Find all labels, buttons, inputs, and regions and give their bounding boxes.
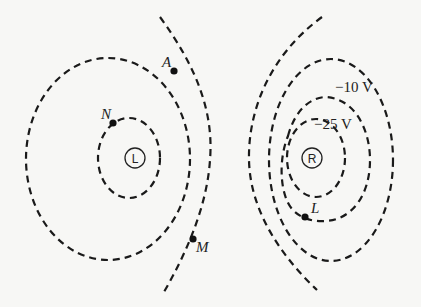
point-N-label: N — [100, 106, 112, 122]
left-outer-equipotential — [26, 58, 190, 260]
point-L-label: L — [310, 200, 319, 216]
left-charge: L — [125, 148, 145, 168]
point-M-label: M — [195, 239, 210, 255]
right-charge-label: R — [308, 152, 317, 166]
left-charge-label: L — [132, 152, 139, 166]
point-A-dot — [170, 67, 177, 74]
right-charge: R — [302, 148, 322, 168]
right-minus10-equipotential — [269, 59, 393, 261]
potential-label-minus25: −25 V — [314, 116, 352, 132]
potential-label-minus10: −10 V — [335, 79, 373, 95]
point-L-dot — [301, 213, 308, 220]
equipotential-diagram: L R −10 V −25 V A N M L — [0, 0, 421, 307]
point-N: N — [100, 106, 117, 127]
diagram-svg: L R −10 V −25 V A N M L — [0, 0, 421, 307]
point-M: M — [189, 235, 210, 255]
point-A: A — [161, 54, 178, 75]
point-A-label: A — [161, 54, 172, 70]
point-L: L — [301, 200, 319, 221]
